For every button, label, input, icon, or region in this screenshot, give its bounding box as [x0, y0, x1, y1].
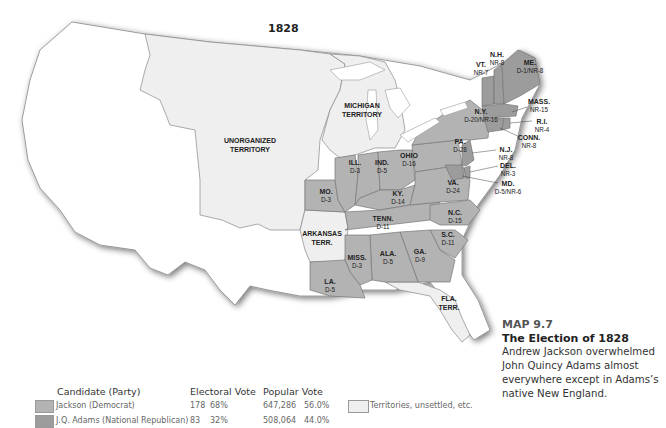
legend-electoral-pct: 68% — [210, 401, 228, 410]
state-vote: D-15 — [448, 217, 462, 224]
legend-swatch-adams — [35, 415, 54, 428]
state-vote: D-16 — [402, 160, 416, 167]
state-vote: NR-3 — [501, 170, 516, 177]
state-abbr: ILL. — [349, 159, 361, 166]
legend-territories-label: Territories, unsettled, etc. — [370, 401, 473, 410]
state-abbr: OHIO — [400, 152, 418, 159]
region-label: TERRITORY — [230, 146, 270, 153]
caption-map-number: MAP 9.7 — [502, 318, 666, 331]
state-abbr: ME. — [524, 59, 537, 66]
state-vote: D-9 — [415, 256, 426, 263]
region-label: ARKANSAS — [302, 230, 342, 237]
state-vote: D-28 — [453, 146, 467, 153]
state-abbr: ALA. — [380, 250, 396, 257]
state-vote: D-5 — [377, 167, 388, 174]
legend-header-popular: Popular Vote — [263, 386, 323, 397]
region-label: UNORGANIZED — [224, 137, 276, 144]
state-vote: NR-4 — [535, 126, 550, 133]
state-abbr: PA. — [454, 138, 465, 145]
legend-electoral-pct: 32% — [210, 416, 228, 425]
state-vote: NR-15 — [530, 106, 549, 113]
state-abbr: LA. — [324, 278, 335, 285]
legend-header-candidate: Candidate (Party) — [57, 386, 140, 397]
region-label: TERR. — [439, 304, 460, 311]
state-vote: NR-8 — [499, 154, 514, 161]
legend-candidate: Jackson (Democrat) — [56, 401, 135, 410]
state-abbr: VA. — [447, 179, 458, 186]
state-vote: NR-7 — [474, 69, 489, 76]
state-abbr: GA. — [414, 248, 427, 255]
state-vote: D-3 — [350, 167, 361, 174]
state-vote: D-14 — [391, 198, 405, 205]
state-abbr: KY. — [393, 190, 404, 197]
state-vote: D-20/NR-16 — [464, 116, 498, 123]
legend-electoral-votes: 83 — [190, 416, 200, 425]
state-abbr: VT. — [476, 61, 486, 68]
legend-popular-votes: 508,064 — [263, 416, 296, 425]
state-vote: NR-8 — [490, 59, 505, 66]
state-vote: D-5 — [325, 286, 336, 293]
region-label: FLA. — [441, 295, 457, 302]
state-vote: NR-8 — [522, 142, 537, 149]
legend-popular-votes: 647,286 — [263, 401, 296, 410]
state-abbr: S.C. — [441, 231, 455, 238]
region-label: TERR. — [312, 239, 333, 246]
state-abbr: CONN. — [518, 134, 541, 141]
legend-swatch-territories — [348, 400, 369, 413]
state-vote: D-11 — [441, 239, 455, 246]
state-abbr: MISS. — [347, 254, 366, 261]
state-abbr: N.C. — [448, 209, 462, 216]
state-vote: D-5/NR-6 — [495, 188, 522, 195]
state-vote: D-1/NR-8 — [517, 67, 544, 74]
state-vote: D-11 — [376, 223, 390, 230]
state-abbr: MO. — [319, 188, 332, 195]
map-caption: MAP 9.7 The Election of 1828 Andrew Jack… — [502, 318, 666, 401]
state-vote: D-5 — [383, 258, 394, 265]
region-label: TERRITORY — [342, 111, 382, 118]
state-vermont — [482, 76, 494, 106]
state-abbr: N.Y. — [475, 108, 488, 115]
state-abbr: TENN. — [373, 215, 394, 222]
map-year-title: 1828 — [268, 22, 299, 35]
legend-electoral-votes: 178 — [190, 401, 205, 410]
legend: Candidate (Party) Electoral Vote Popular… — [0, 376, 520, 425]
state-vote: D-3 — [352, 262, 363, 269]
state-abbr: IND. — [375, 159, 389, 166]
state-vote: D-24 — [446, 187, 460, 194]
legend-candidate: J.Q. Adams (National Republican) — [56, 416, 188, 425]
state-abbr: N.J. — [500, 146, 513, 153]
state-abbr: MD. — [502, 180, 515, 187]
legend-header-electoral: Electoral Vote — [190, 386, 256, 397]
caption-title: The Election of 1828 — [502, 332, 666, 345]
state-abbr: N.H. — [490, 51, 504, 58]
legend-popular-pct: 44.0% — [304, 416, 329, 425]
state-abbr: R.I. — [537, 118, 548, 125]
legend-popular-pct: 56.0% — [304, 401, 329, 410]
legend-swatch-jackson — [35, 400, 54, 413]
region-label: MICHIGAN — [344, 102, 379, 109]
state-abbr: DEL. — [500, 162, 516, 169]
state-abbr: MASS. — [528, 98, 550, 105]
caption-body: Andrew Jackson overwhelmed John Quincy A… — [502, 345, 666, 401]
state-vote: D-3 — [321, 196, 332, 203]
